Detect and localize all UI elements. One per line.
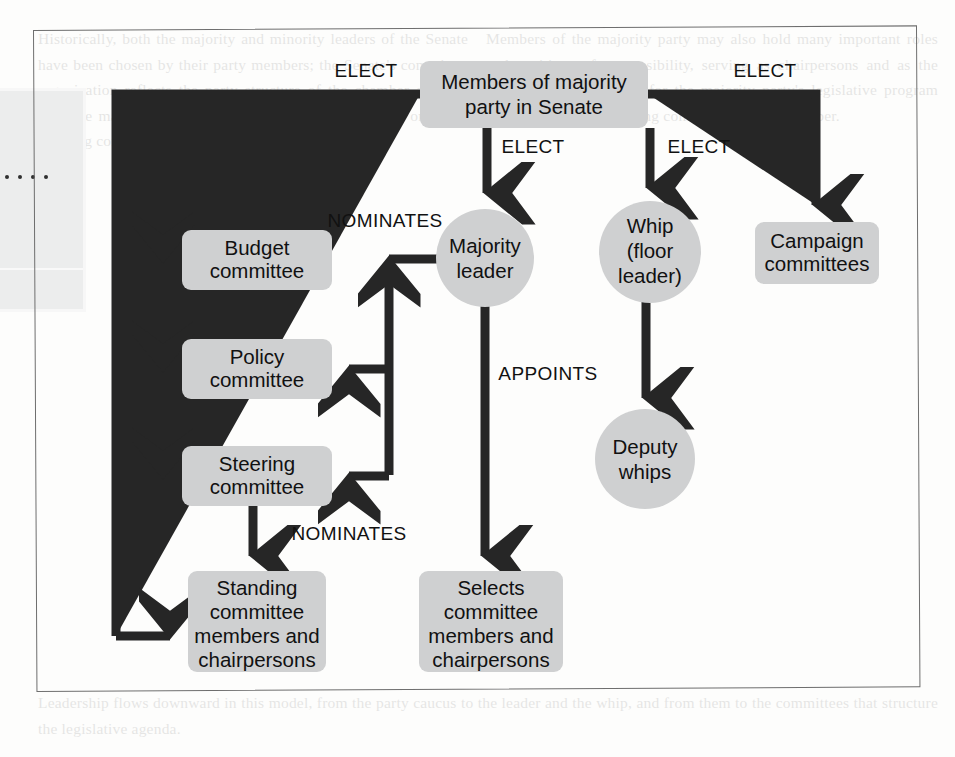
edge-label-appoints: APPOINTS bbox=[498, 363, 597, 384]
node-selects-committee-members[interactable]: Selects committee members and chairperso… bbox=[419, 571, 563, 672]
svg-text:committee: committee bbox=[210, 475, 305, 498]
node-steering-committee[interactable]: Steering committee bbox=[182, 446, 332, 506]
node-deputy-whips[interactable]: Deputy whips bbox=[595, 409, 695, 509]
svg-text:committee: committee bbox=[210, 368, 305, 391]
node-majority-leader[interactable]: Majority leader bbox=[436, 209, 534, 307]
svg-text:Selects: Selects bbox=[457, 576, 524, 599]
svg-text:whips: whips bbox=[618, 460, 671, 483]
svg-text:Standing: Standing bbox=[217, 576, 298, 599]
node-whip-floor-leader[interactable]: Whip (floor leader) bbox=[599, 201, 701, 303]
node-campaign-committees[interactable]: Campaign committees bbox=[755, 222, 879, 284]
svg-text:leader): leader) bbox=[618, 264, 682, 287]
svg-text:committees: committees bbox=[765, 252, 870, 275]
svg-text:leader: leader bbox=[457, 259, 514, 282]
edge-label-elect-right: ELECT bbox=[733, 60, 796, 81]
svg-text:(floor: (floor bbox=[627, 239, 674, 262]
edge-label-elect-left: ELECT bbox=[334, 60, 397, 81]
edge-label-nominates-bottom: NOMINATES bbox=[291, 523, 406, 544]
svg-text:party in Senate: party in Senate bbox=[465, 95, 603, 118]
node-budget-committee[interactable]: Budget committee bbox=[182, 230, 332, 290]
node-members-of-majority-party[interactable]: Members of majority party in Senate bbox=[420, 61, 648, 128]
svg-text:chairpersons: chairpersons bbox=[198, 648, 315, 671]
node-standing-committee-members[interactable]: Standing committee members and chairpers… bbox=[188, 571, 326, 672]
node-policy-committee[interactable]: Policy committee bbox=[182, 339, 332, 399]
svg-text:members and: members and bbox=[428, 624, 553, 647]
svg-text:Campaign: Campaign bbox=[770, 229, 863, 252]
svg-text:members and: members and bbox=[194, 624, 319, 647]
svg-text:committee: committee bbox=[210, 600, 305, 623]
svg-text:Whip: Whip bbox=[627, 214, 674, 237]
svg-text:Majority: Majority bbox=[449, 234, 522, 257]
svg-text:committee: committee bbox=[444, 600, 539, 623]
svg-text:Policy: Policy bbox=[230, 345, 285, 368]
senate-leadership-flowchart: Members of majority party in Senate Majo… bbox=[0, 0, 955, 757]
svg-text:committee: committee bbox=[210, 259, 305, 282]
edge-label-elect-center-left: ELECT bbox=[501, 136, 564, 157]
svg-text:chairpersons: chairpersons bbox=[432, 648, 549, 671]
svg-text:Deputy: Deputy bbox=[613, 435, 679, 458]
svg-text:Budget: Budget bbox=[225, 236, 290, 259]
edge-label-elect-center-right: ELECT bbox=[667, 136, 730, 157]
scanned-page: Historically, both the majority and mino… bbox=[0, 0, 955, 757]
edge-label-nominates-top: NOMINATES bbox=[327, 210, 442, 231]
svg-text:Steering: Steering bbox=[219, 452, 295, 475]
svg-text:Members of majority: Members of majority bbox=[441, 70, 627, 93]
